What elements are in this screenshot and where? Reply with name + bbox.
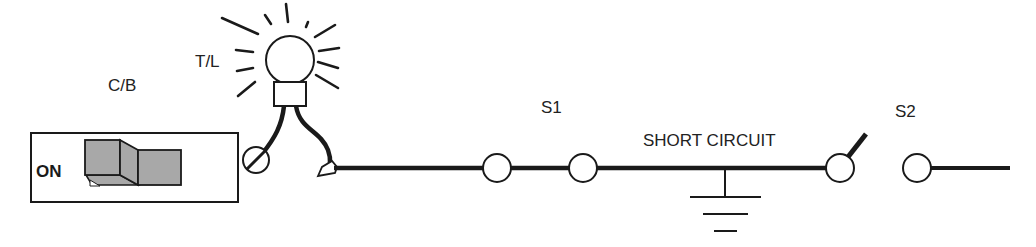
short-circuit: SHORT CIRCUIT <box>643 131 776 231</box>
circuit-breaker: C/B ON <box>31 76 238 202</box>
short-circuit-label: SHORT CIRCUIT <box>643 131 776 150</box>
terminal-icon <box>569 154 597 182</box>
screw-terminal-icon <box>243 147 269 173</box>
terminal-icon <box>903 154 931 182</box>
circuit-breaker-state-label: ON <box>36 162 62 181</box>
connector-s2-label: S2 <box>895 102 916 121</box>
bulb-base <box>274 82 306 106</box>
test-light-label: T/L <box>195 52 220 71</box>
connector-s1-label: S1 <box>541 98 562 117</box>
terminal-icon <box>483 154 511 182</box>
test-light-lead-right <box>296 106 330 165</box>
open-switch-lever-icon <box>848 134 866 157</box>
circuit-breaker-label: C/B <box>108 76 136 95</box>
circuit-diagram: C/B ON T/L <box>0 0 1036 247</box>
bulb-icon <box>266 36 314 84</box>
ground-icon <box>690 168 761 231</box>
test-light-lead-left <box>262 106 284 154</box>
connector-s2: S2 <box>826 102 931 182</box>
